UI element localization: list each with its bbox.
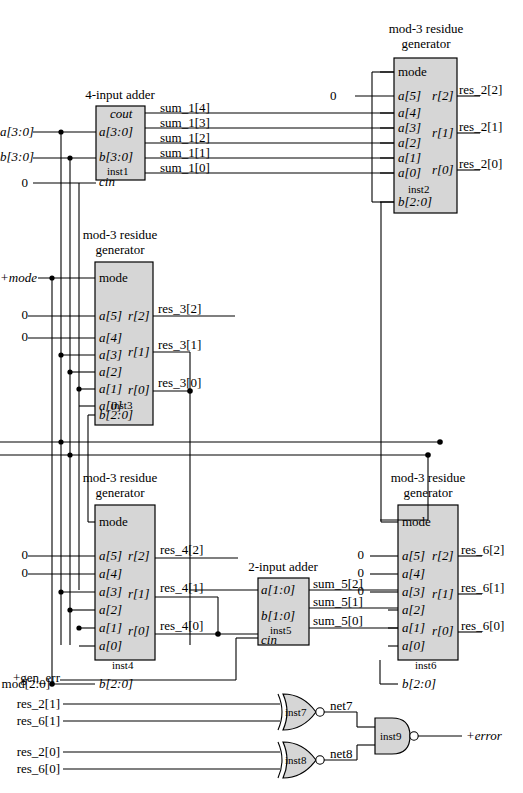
net-res_3_2: res_3[2] <box>158 301 201 317</box>
inst6-title-line1: mod-3 residue <box>368 471 488 485</box>
inst3-port-r2: r[2] <box>128 308 150 324</box>
inst6-port-r1: r[1] <box>432 586 454 602</box>
inst2-title-line1: mod-3 residue <box>370 22 482 36</box>
inst4-title-line2: generator <box>60 486 180 500</box>
inst6-title-line2: generator <box>368 486 488 500</box>
gate-input-res_6_0: res_6[0] <box>0 761 60 777</box>
net-sum_1_2: sum_1[2] <box>160 130 210 146</box>
inst2-port-a1: a[1] <box>398 150 421 166</box>
net-res_2_0: res_2[0] <box>459 156 502 172</box>
inst2-input-zero: 0 <box>330 88 337 104</box>
inst2-port-a4: a[4] <box>398 105 421 121</box>
net-sum_1_4: sum_1[4] <box>160 100 210 116</box>
schematic-wires: .w{stroke:#000;stroke-width:1.1;fill:non… <box>0 0 523 793</box>
inst1-port-b: b[3:0] <box>99 149 133 165</box>
junction-inst4-a2 <box>67 607 72 612</box>
inst5-port-b: b[1:0] <box>261 608 295 624</box>
inst6-instance-name: inst6 <box>415 659 436 671</box>
inst3-port-a4: a[4] <box>99 330 122 346</box>
inst4-port-a1: a[1] <box>99 620 122 636</box>
net-res_6_2: res_6[2] <box>461 542 504 558</box>
net-sum_5_0: sum_5[0] <box>313 613 363 629</box>
junction-left-1 <box>58 439 63 444</box>
inst6-port-a4: a[4] <box>402 566 425 582</box>
input-mode: +mode <box>0 270 36 286</box>
net-res_3_1: res_3[1] <box>158 337 201 353</box>
inst2-port-b: b[2:0] <box>398 194 432 210</box>
inst3-port-b: b[2:0] <box>99 407 133 423</box>
inst6-port-a5: a[5] <box>402 548 425 564</box>
inst3-port-r0: r[0] <box>128 382 150 398</box>
inst2-port-a2: a[2] <box>398 135 421 151</box>
inst3-title-line1: mod-3 residue <box>60 228 180 242</box>
inst2-port-mode: mode <box>398 64 427 80</box>
inst4-port-a0: a[0] <box>99 638 122 654</box>
input-zero-cin: 0 <box>0 175 28 191</box>
junction-inst3-a3 <box>58 352 63 357</box>
inst4-port-r2: r[2] <box>128 548 150 564</box>
inst3-input-zero-a5: 0 <box>0 307 28 323</box>
inst5-port-cin: cin <box>261 632 277 648</box>
net-res_4_0: res_4[0] <box>160 618 203 634</box>
junction-inst3-a2 <box>67 369 72 374</box>
inst2-title-line2: generator <box>370 37 482 51</box>
schematic-canvas: .w{stroke:#000;stroke-width:1.1;fill:non… <box>0 0 523 793</box>
net-res_4_1: res_4[1] <box>160 580 203 596</box>
gate-inst8-bubble <box>316 756 324 764</box>
inst2-port-r1: r[1] <box>432 125 454 141</box>
inst6-input-zero-a3: 0 <box>340 583 364 599</box>
inst6-port-a0: a[0] <box>402 638 425 654</box>
inst4-input-zero-a5: 0 <box>0 547 28 563</box>
inst6-port-r2: r[2] <box>432 548 454 564</box>
inst3-port-r1: r[1] <box>128 344 150 360</box>
net-res_2_1: res_2[1] <box>459 119 502 135</box>
junction-inst3-a1 <box>76 386 81 391</box>
inst6-port-a1: a[1] <box>402 620 425 636</box>
inst2-port-r0: r[0] <box>432 162 454 178</box>
inst3-port-a5: a[5] <box>99 308 122 324</box>
gate-inst7-bubble <box>316 708 324 716</box>
net-res_4_2: res_4[2] <box>160 542 203 558</box>
net-res_3_0: res_3[0] <box>158 375 201 391</box>
inst5-port-a: a[1:0] <box>261 582 295 598</box>
inst4-instance-name: inst4 <box>112 659 133 671</box>
junction-inst4-a1 <box>76 625 81 630</box>
inst6-port-b: b[2:0] <box>402 676 436 692</box>
inst2-port-a0: a[0] <box>398 165 421 181</box>
inst3-title-line2: generator <box>60 243 180 257</box>
net-res_2_2: res_2[2] <box>459 82 502 98</box>
inst6-port-a2: a[2] <box>402 602 425 618</box>
net-sum_1_0: sum_1[0] <box>160 160 210 176</box>
inst4-port-a4: a[4] <box>99 566 122 582</box>
inst4-port-a5: a[5] <box>99 548 122 564</box>
gate-inst8-xor-arc <box>278 742 282 778</box>
gate-input-res_6_1: res_6[1] <box>0 713 60 729</box>
inst6-input-zero-a4: 0 <box>340 565 364 581</box>
input-a: a[3:0] <box>0 124 33 140</box>
net-net8: net8 <box>330 746 352 762</box>
inst3-port-a2: a[2] <box>99 364 122 380</box>
inst3-input-zero-a4: 0 <box>0 329 28 345</box>
input-b: b[3:0] <box>0 149 33 165</box>
input-gen-err: +gen_err <box>0 670 60 686</box>
inst3-port-mode: mode <box>99 270 128 286</box>
inst4-port-b: b[2:0] <box>99 676 133 692</box>
inst6-port-mode: mode <box>402 514 431 530</box>
inst3-port-a1: a[1] <box>99 381 122 397</box>
gate-input-res_2_0: res_2[0] <box>0 744 60 760</box>
inst5-title: 2-input adder <box>228 560 338 574</box>
net-sum_1_1: sum_1[1] <box>160 145 210 161</box>
inst3-port-a3: a[3] <box>99 347 122 363</box>
gate-inst9-bubble <box>410 732 418 740</box>
net-res_6_1: res_6[1] <box>461 580 504 596</box>
inst6-port-r0: r[0] <box>432 623 454 639</box>
inst4-port-r0: r[0] <box>128 623 150 639</box>
junction-inst4-a3 <box>58 589 63 594</box>
inst6-input-zero-a5: 0 <box>340 547 364 563</box>
junction-bus-1 <box>437 439 443 445</box>
inst6-port-a3: a[3] <box>402 584 425 600</box>
inst4-title-line1: mod-3 residue <box>60 471 180 485</box>
inst2-port-a3: a[3] <box>398 120 421 136</box>
junction-b <box>67 155 72 160</box>
inst4-port-a3: a[3] <box>99 584 122 600</box>
